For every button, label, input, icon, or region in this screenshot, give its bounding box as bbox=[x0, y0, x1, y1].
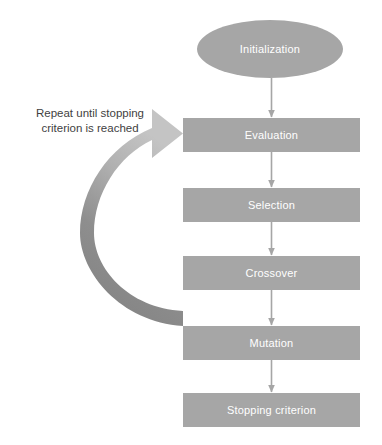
loop-arrow-caption: Repeat until stopping criterion is reach… bbox=[14, 106, 166, 136]
node-shape-stopping-criterion bbox=[183, 393, 360, 427]
loop-arrow-mutation-to-evaluation bbox=[80, 109, 183, 326]
flowchart-canvas bbox=[0, 0, 382, 445]
node-shape-initialization bbox=[197, 20, 343, 78]
node-shape-selection bbox=[183, 188, 360, 222]
node-shape-evaluation bbox=[183, 118, 360, 152]
flowchart-diagram: Initialization Evaluation Selection Cros… bbox=[0, 0, 382, 445]
node-shape-crossover bbox=[183, 256, 360, 290]
node-shape-mutation bbox=[183, 326, 360, 360]
